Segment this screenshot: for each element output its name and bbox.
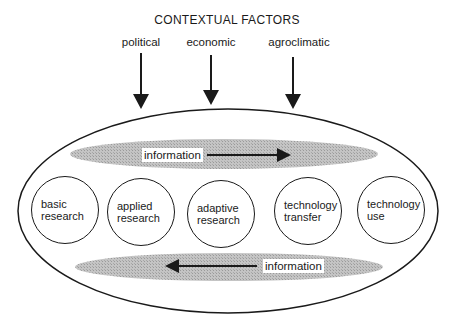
node-applied-research: applied research (107, 178, 175, 246)
factor-political: political (122, 36, 160, 48)
information-label-top: information (142, 148, 203, 162)
factor-arrows (133, 53, 301, 109)
node-label: technology transfer (284, 199, 341, 223)
node-basic-research: basic research (31, 176, 99, 244)
factor-economic: economic (186, 36, 235, 48)
information-label-bottom: information (263, 259, 324, 273)
node-label: technology use (367, 198, 424, 222)
node-label: adaptive research (197, 202, 254, 226)
node-technology-use: technology use (357, 176, 425, 244)
diagram-title: CONTEXTUAL FACTORS (0, 13, 454, 27)
node-adaptive-research: adaptive research (187, 180, 255, 248)
node-technology-transfer: technology transfer (274, 177, 342, 245)
factor-agroclimatic: agroclimatic (268, 36, 329, 48)
diagram-canvas (0, 0, 454, 322)
node-label: basic research (41, 198, 98, 222)
node-label: applied research (117, 200, 174, 224)
